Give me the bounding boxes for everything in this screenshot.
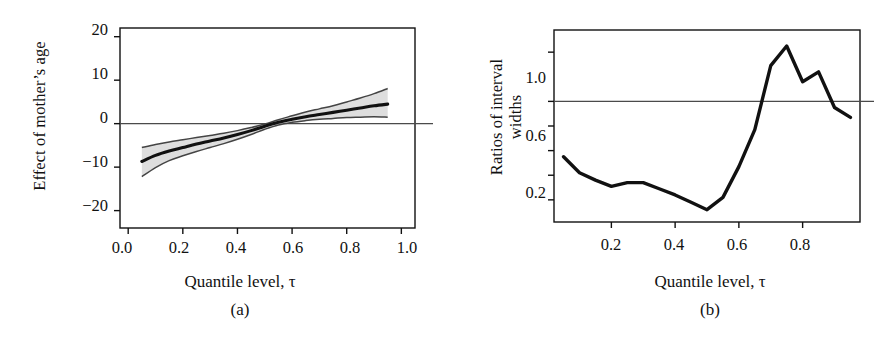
panel-b-x-axis-title: Quantile level, τ bbox=[560, 272, 860, 292]
svg-a-confidence-band bbox=[142, 88, 388, 176]
svg-b-series-line bbox=[564, 46, 851, 210]
svg-b-frame bbox=[554, 30, 860, 222]
panel-a-x-axis-title: Quantile level, τ bbox=[90, 272, 390, 292]
panel-b: Ratios of interval widths 1.0 0.6 0.2 0.… bbox=[450, 0, 894, 337]
panel-b-caption: (b) bbox=[560, 300, 860, 320]
figure-container: Effect of mother’s age 20 10 0 −10 −20 0… bbox=[0, 0, 894, 337]
panel-a-caption: (a) bbox=[90, 300, 390, 320]
panel-a: Effect of mother’s age 20 10 0 −10 −20 0… bbox=[0, 0, 450, 337]
